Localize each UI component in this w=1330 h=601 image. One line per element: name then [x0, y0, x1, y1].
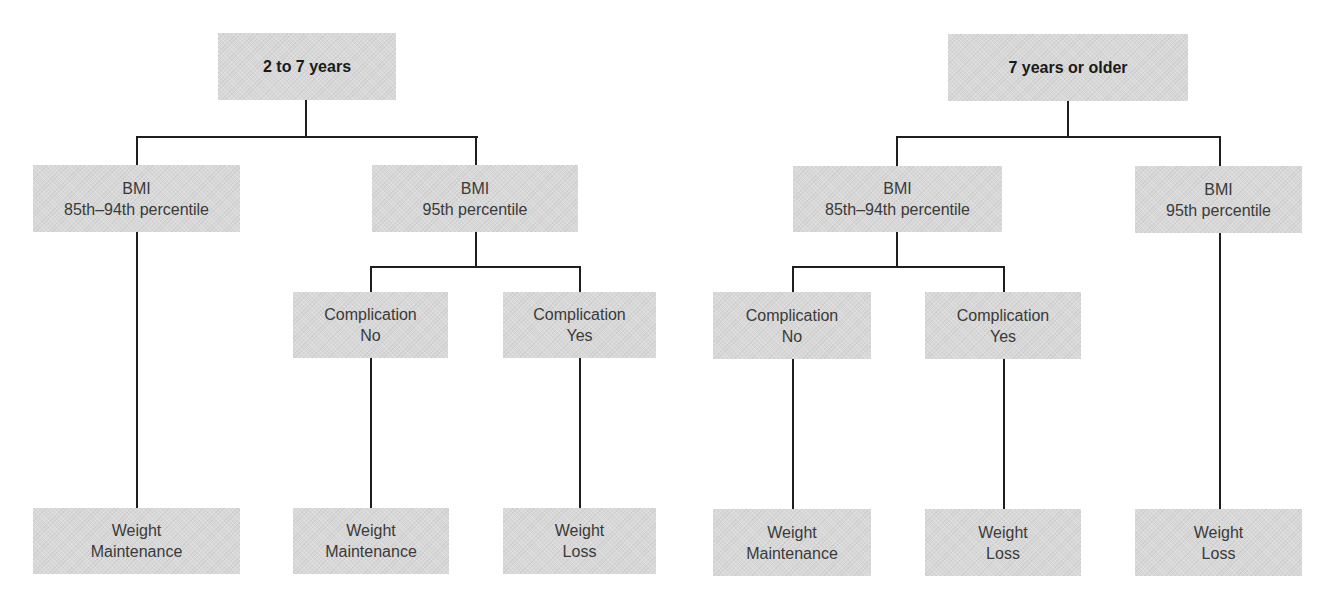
- node-age-7-or-older: 7 years or older: [948, 34, 1188, 101]
- node-label-line1: BMI: [122, 178, 150, 199]
- connector: [579, 266, 581, 292]
- node-label-line2: 85th–94th percentile: [64, 199, 209, 220]
- connector: [896, 136, 898, 166]
- connector: [1003, 266, 1005, 292]
- node-outcome-weight-maintenance: Weight Maintenance: [293, 508, 449, 574]
- connector: [136, 136, 138, 166]
- node-outcome-weight-loss: Weight Loss: [1135, 509, 1302, 576]
- connector: [1219, 136, 1221, 166]
- node-label-line1: Complication: [957, 305, 1049, 326]
- node-outcome-weight-maintenance: Weight Maintenance: [33, 508, 240, 574]
- connector: [792, 266, 1005, 268]
- node-label-line1: Weight: [346, 520, 396, 541]
- node-bmi-95-left: BMI 95th percentile: [372, 165, 578, 232]
- node-label-line2: Yes: [566, 325, 592, 346]
- connector: [1219, 233, 1221, 509]
- node-label-line1: Complication: [746, 305, 838, 326]
- node-label-line1: Weight: [555, 520, 605, 541]
- node-outcome-weight-loss: Weight Loss: [925, 509, 1081, 576]
- node-label-line1: BMI: [1204, 179, 1232, 200]
- node-label-line1: Weight: [1194, 522, 1244, 543]
- node-label-line2: 95th percentile: [423, 199, 528, 220]
- node-label: 2 to 7 years: [263, 56, 351, 77]
- node-label-line1: Complication: [533, 304, 625, 325]
- node-label-line1: BMI: [461, 178, 489, 199]
- connector: [475, 232, 477, 267]
- connector: [136, 232, 138, 508]
- node-label-line2: Loss: [563, 541, 597, 562]
- connector: [370, 358, 372, 508]
- connector: [896, 136, 1221, 138]
- connector: [305, 100, 307, 137]
- node-bmi-95-right: BMI 95th percentile: [1135, 166, 1302, 233]
- node-bmi-85-94-right: BMI 85th–94th percentile: [793, 166, 1002, 232]
- node-label-line2: Maintenance: [91, 541, 183, 562]
- connector: [1067, 101, 1069, 137]
- connector: [579, 358, 581, 508]
- node-complication-yes-left: Complication Yes: [503, 292, 656, 358]
- connector: [792, 266, 794, 292]
- node-label-line2: 95th percentile: [1166, 200, 1271, 221]
- node-label-line2: 85th–94th percentile: [825, 199, 970, 220]
- node-label-line2: Maintenance: [325, 541, 417, 562]
- node-bmi-85-94-left: BMI 85th–94th percentile: [33, 165, 240, 232]
- node-label-line2: Maintenance: [746, 543, 838, 564]
- node-complication-no-right: Complication No: [713, 292, 871, 359]
- connector: [370, 266, 372, 292]
- connector: [1003, 359, 1005, 509]
- node-label-line2: Loss: [1202, 543, 1236, 564]
- node-label-line2: Yes: [990, 326, 1016, 347]
- connector: [475, 136, 477, 166]
- node-label: 7 years or older: [1008, 57, 1127, 78]
- node-label-line2: No: [782, 326, 802, 347]
- connector: [136, 136, 478, 138]
- node-label-line1: BMI: [883, 178, 911, 199]
- connector: [792, 359, 794, 509]
- node-label-line2: No: [360, 325, 380, 346]
- node-label-line1: Weight: [978, 522, 1028, 543]
- node-outcome-weight-maintenance: Weight Maintenance: [713, 509, 871, 576]
- node-complication-yes-right: Complication Yes: [925, 292, 1081, 359]
- node-label-line2: Loss: [986, 543, 1020, 564]
- connector: [896, 232, 898, 267]
- node-complication-no-left: Complication No: [293, 292, 448, 358]
- connector: [370, 266, 581, 268]
- node-age-2-to-7: 2 to 7 years: [218, 33, 396, 100]
- node-outcome-weight-loss: Weight Loss: [503, 508, 656, 574]
- node-label-line1: Weight: [767, 522, 817, 543]
- node-label-line1: Weight: [112, 520, 162, 541]
- node-label-line1: Complication: [324, 304, 416, 325]
